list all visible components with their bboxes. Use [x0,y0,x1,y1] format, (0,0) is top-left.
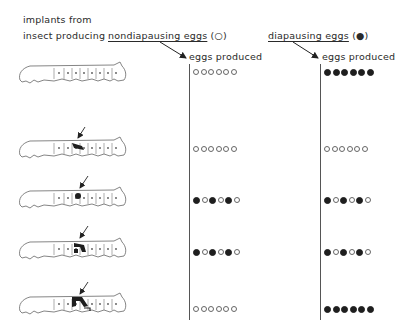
diapausing-egg-icon [324,197,331,204]
eggs-row-3-left [193,249,240,256]
nondiapausing-egg-icon [365,197,371,203]
nondiapausing-egg-icon [208,69,214,75]
nondiapausing-egg-icon [349,197,355,203]
nondiapausing-egg-icon [354,146,360,152]
diapausing-egg-icon [333,69,340,76]
nondiapausing-egg-icon [216,306,222,312]
nondiapausing-egg-icon [333,249,339,255]
nondiapausing-egg-icon [208,306,214,312]
nondiapausing-egg-icon [201,146,207,152]
nondiapausing-egg-icon [218,249,224,255]
eggs-row-1-right [324,146,368,152]
nondiapausing-egg-icon [349,249,355,255]
nondiapausing-egg-icon [362,146,368,152]
diapausing-egg-icon [341,306,348,313]
diapausing-egg-icon [350,306,357,313]
diapausing-egg-icon [193,249,200,256]
nondiapausing-egg-icon [231,306,237,312]
diapausing-egg-icon [356,197,363,204]
nondiapausing-egg-icon [347,146,353,152]
diapausing-egg-icon [358,69,365,76]
diapausing-egg-icon [209,249,216,256]
diapausing-egg-icon [324,69,331,76]
nondiapausing-egg-icon [223,306,229,312]
eggs-row-2-right [324,197,371,204]
nondiapausing-egg-icon [234,197,240,203]
eggs-row-3-right [324,249,371,256]
nondiapausing-egg-icon [193,69,199,75]
nondiapausing-egg-icon [231,146,237,152]
diapausing-egg-icon [193,197,200,204]
nondiapausing-egg-icon [201,306,207,312]
nondiapausing-egg-icon [324,146,330,152]
nondiapausing-egg-icon [216,146,222,152]
nondiapausing-egg-icon [201,69,207,75]
diapausing-egg-icon [341,69,348,76]
diapausing-egg-icon [324,306,331,313]
eggs-row-4-left [193,306,237,312]
nondiapausing-egg-icon [332,146,338,152]
eggs-row-0-left [193,69,237,75]
nondiapausing-egg-icon [234,249,240,255]
diapausing-egg-icon [367,306,374,313]
diapausing-egg-icon [356,249,363,256]
diapausing-egg-icon [324,249,331,256]
nondiapausing-egg-icon [193,306,199,312]
nondiapausing-egg-icon [223,69,229,75]
nondiapausing-egg-icon [202,249,208,255]
nondiapausing-egg-icon [202,197,208,203]
eggs-row-1-left [193,146,237,152]
diapausing-egg-icon [209,197,216,204]
nondiapausing-egg-icon [365,249,371,255]
diagram-drawing [0,0,410,333]
diapausing-egg-icon [340,249,347,256]
nondiapausing-egg-icon [223,146,229,152]
diapausing-egg-icon [225,249,232,256]
diapausing-egg-icon [333,306,340,313]
diapausing-egg-icon [225,197,232,204]
diapausing-egg-icon [350,69,357,76]
eggs-row-4-right [324,306,374,313]
diapausing-egg-icon [367,69,374,76]
nondiapausing-egg-icon [193,146,199,152]
nondiapausing-egg-icon [231,69,237,75]
eggs-row-2-left [193,197,240,204]
diapausing-egg-icon [340,197,347,204]
nondiapausing-egg-icon [216,69,222,75]
nondiapausing-egg-icon [208,146,214,152]
nondiapausing-egg-icon [218,197,224,203]
nondiapausing-egg-icon [333,197,339,203]
nondiapausing-egg-icon [339,146,345,152]
eggs-row-0-right [324,69,374,76]
diapausing-egg-icon [358,306,365,313]
